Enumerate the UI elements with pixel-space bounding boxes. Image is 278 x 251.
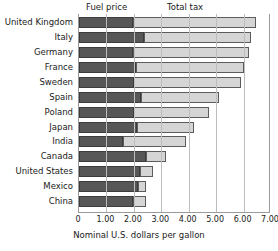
bar-segment-total-tax	[134, 77, 241, 88]
gridline	[189, 14, 190, 212]
gridline	[244, 14, 245, 212]
bar-segment-fuel-price	[79, 181, 138, 192]
chart-legend: Fuel price Total tax	[0, 0, 278, 14]
category-label: Spain	[49, 92, 73, 103]
gridline	[134, 14, 135, 212]
category-label: Germany	[34, 47, 73, 58]
bar-segment-total-tax	[136, 62, 244, 73]
bar-segment-total-tax	[123, 136, 186, 147]
bar-segment-fuel-price	[79, 62, 136, 73]
bar-segment-total-tax	[133, 196, 146, 207]
bar-segment-fuel-price	[79, 122, 137, 133]
bar-segment-total-tax	[133, 17, 256, 28]
bar-segment-total-tax	[133, 47, 249, 58]
bar-segment-total-tax	[144, 32, 251, 43]
gridline	[106, 14, 107, 212]
category-label: Italy	[55, 32, 73, 43]
gridline	[161, 14, 162, 212]
category-label: Japan	[49, 122, 73, 133]
bar-segment-total-tax	[138, 181, 146, 192]
bar-segment-total-tax	[141, 92, 219, 103]
x-tick-label: 4.00	[179, 214, 197, 225]
x-axis-ticks: 01.002.003.004.005.006.007.00	[0, 214, 278, 226]
gridline	[216, 14, 217, 212]
bar-segment-total-tax	[140, 166, 153, 177]
x-tick-label: 1.00	[97, 214, 115, 225]
legend-label-fuel-price: Fuel price	[86, 1, 127, 13]
category-axis-labels: United KingdomItalyGermanyFranceSwedenSp…	[0, 14, 76, 213]
x-tick-label: 0	[75, 214, 80, 225]
bar-segment-fuel-price	[79, 136, 123, 147]
bar-segment-total-tax	[146, 151, 166, 162]
category-label: France	[45, 62, 73, 73]
category-label: Sweden	[39, 77, 73, 88]
x-tick-label: 2.00	[124, 214, 142, 225]
legend-label-total-tax: Total tax	[167, 1, 203, 13]
category-label: United States	[15, 166, 73, 177]
plot-area	[78, 14, 270, 213]
category-label: Mexico	[43, 181, 73, 192]
fuel-price-tax-chart: Fuel price Total tax United KingdomItaly…	[0, 0, 278, 251]
x-tick-label: 7.00	[261, 214, 278, 225]
category-label: India	[52, 136, 73, 147]
bar-segment-fuel-price	[79, 151, 146, 162]
category-label: Canada	[41, 151, 73, 162]
category-label: Poland	[45, 107, 73, 118]
bar-rows	[79, 14, 269, 212]
x-axis-label: Nominal U.S. dollars per gallon	[0, 230, 278, 240]
bar-segment-fuel-price	[79, 92, 141, 103]
x-tick-label: 6.00	[234, 214, 252, 225]
x-tick-label: 3.00	[151, 214, 169, 225]
category-label: China	[49, 196, 73, 207]
bar-segment-total-tax	[137, 122, 194, 133]
bar-segment-total-tax	[134, 107, 209, 118]
bar-segment-fuel-price	[79, 166, 140, 177]
category-label: United Kingdom	[5, 17, 73, 28]
x-tick-label: 5.00	[206, 214, 224, 225]
